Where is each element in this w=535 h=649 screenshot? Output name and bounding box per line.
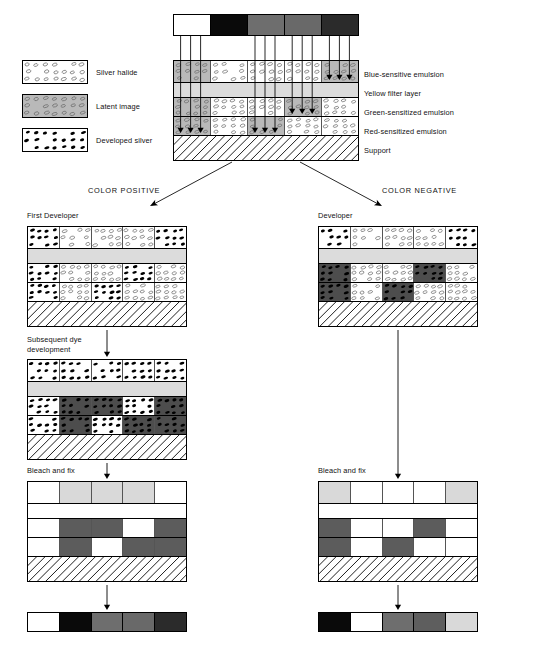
pos-bleach-row-2 [27,503,187,518]
grain-texture [285,117,321,135]
branch-line-negative [300,162,380,205]
pos-firstdev-row-2 [27,248,187,263]
neg-bleach-row-2 [318,503,478,518]
grain-texture [23,95,87,117]
legend-label-developed-silver: Developed silver [96,136,152,146]
pos-bleach-cell-3-3 [92,519,124,537]
neg-dev-cell-4-3 [383,283,415,301]
branch-line-positive [152,162,232,205]
neg-dev-cell-5-1 [319,302,477,326]
exposed-film-stack [173,60,359,161]
pos-dye-cell-4-5 [155,416,186,434]
neg-bleach-cell-4-4 [414,538,446,556]
exposed-cell-2-1 [174,83,358,97]
exposed-row-2 [173,82,359,97]
grain-texture [211,98,247,116]
pos-dye-cell-1-3 [92,360,124,381]
legend-label-latent-image: Latent image [96,102,140,112]
grain-texture [383,227,414,248]
positive-result-segment-4 [123,613,155,631]
exposure-tone-bar [173,14,359,36]
grain-texture [285,98,321,116]
pos-bleach-row-3 [27,518,187,537]
grain-texture [155,227,186,248]
grain-texture [383,264,414,282]
neg-dev-cell-3-5 [446,264,477,282]
neg-bleach-row-5 [318,556,478,582]
pos-bleach-cell-4-2 [60,538,92,556]
neg-bleach-cell-1-2 [351,482,383,503]
grain-texture [351,264,382,282]
negative-result-tone-bar [318,612,478,632]
pos-dye-cell-4-2 [60,416,92,434]
positive-result-segment-3 [92,613,124,631]
grain-texture [446,283,477,301]
grain-texture [322,98,358,116]
branch-label-color-negative: COLOR NEGATIVE [382,186,457,196]
neg-bleach-cell-4-1 [319,538,351,556]
pos-bleach-cell-1-5 [155,482,186,503]
negative-bleach-fix-stack [318,481,478,582]
pos-dye-row-4 [27,415,187,434]
grain-texture [28,397,59,415]
grain-texture [211,117,247,135]
pos-firstdev-cell-4-4 [123,283,155,301]
grain-texture [155,416,186,434]
grain-texture [248,61,284,82]
pos-firstdev-row-4 [27,282,187,301]
branch-arrowhead-negative [374,200,383,209]
exposure-bar-segment-1 [174,15,211,35]
pos-bleach-row-4 [27,537,187,556]
negative-result-segment-1 [319,613,351,631]
pos-firstdev-row-3 [27,263,187,282]
exposed-cell-4-2 [211,117,248,135]
grain-texture [60,416,91,434]
neg-bleach-cell-3-5 [446,519,477,537]
neg-dev-row-2 [318,248,478,263]
grain-texture [322,117,358,135]
pos-bleach-cell-1-2 [60,482,92,503]
grain-texture [351,283,382,301]
flow-arrowhead-pos-result [104,605,110,610]
pos-firstdev-cell-3-5 [155,264,186,282]
pos-firstdev-cell-1-2 [60,227,92,248]
grain-texture [174,98,210,116]
pos-dye-cell-1-5 [155,360,186,381]
neg-dev-cell-3-4 [414,264,446,282]
grain-texture [28,283,59,301]
pos-bleach-cell-4-4 [123,538,155,556]
exposed-cell-3-1 [174,98,211,116]
neg-dev-row-4 [318,282,478,301]
support-hatching [174,136,358,160]
exposure-bar-segment-3 [248,15,285,35]
pos-firstdev-row-1 [27,226,187,248]
grain-texture [319,264,350,282]
pos-dye-row-2 [27,381,187,396]
pos-dye-cell-3-5 [155,397,186,415]
grain-texture [174,61,210,82]
grain-texture [123,416,154,434]
grain-texture [123,397,154,415]
legend-swatch-latent-image [22,94,88,118]
neg-dev-cell-3-1 [319,264,351,282]
grain-texture [414,283,445,301]
neg-bleach-cell-1-1 [319,482,351,503]
exposed-row-3 [173,97,359,116]
neg-dev-cell-1-2 [351,227,383,248]
pos-dye-cell-3-4 [123,397,155,415]
grain-texture [285,61,321,82]
layer-label-red: Red-sensitized emulsion [364,127,447,137]
exposed-row-1 [173,60,359,82]
layer-label-support: Support [364,146,391,156]
layer-label-yellow-filter: Yellow filter layer [364,89,421,99]
neg-bleach-cell-1-5 [446,482,477,503]
pos-firstdev-cell-3-2 [60,264,92,282]
grain-texture [155,264,186,282]
pos-dye-row-3 [27,396,187,415]
grain-texture [23,61,87,83]
exposure-bar-segment-4 [285,15,322,35]
grain-texture [92,227,123,248]
pos-dye-cell-4-1 [28,416,60,434]
pos-firstdev-cell-1-4 [123,227,155,248]
neg-dev-cell-3-3 [383,264,415,282]
